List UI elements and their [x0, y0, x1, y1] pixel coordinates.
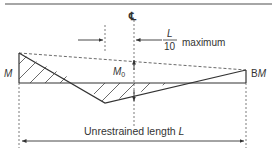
- mid-moment-subscript: 0: [121, 71, 125, 78]
- length-label: Unrestrained length L: [84, 125, 185, 137]
- length-label-var: L: [179, 125, 185, 137]
- mid-moment-label: M0: [113, 66, 125, 78]
- left-moment-label: M: [4, 68, 13, 79]
- hatch-mid: [85, 83, 165, 103]
- right-moment-label: BM: [251, 68, 267, 79]
- offset-fraction-numerator: L: [167, 28, 173, 39]
- dashed-max-moment-line: [19, 53, 246, 70]
- centerline-symbol: ℄: [128, 10, 137, 22]
- moment-diagram-line: [19, 53, 246, 103]
- length-label-text: Unrestrained length: [84, 125, 179, 137]
- bending-moment-diagram: ℄ L 10 maximum M BM M0 Unrestrained leng…: [0, 0, 274, 151]
- offset-fraction-denominator: 10: [164, 41, 176, 52]
- offset-suffix: maximum: [182, 37, 225, 48]
- right-moment-var: M: [258, 68, 267, 79]
